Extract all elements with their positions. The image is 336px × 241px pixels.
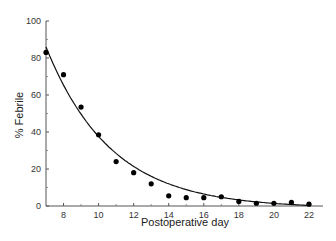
data-point bbox=[149, 181, 154, 186]
y-tick-label: 20 bbox=[31, 164, 41, 174]
x-tick-label: 20 bbox=[269, 210, 279, 220]
data-point bbox=[236, 199, 241, 204]
data-point bbox=[306, 202, 311, 207]
y-axis-title: % Febrile bbox=[13, 92, 25, 138]
data-point bbox=[201, 195, 206, 200]
y-tick-label: 0 bbox=[36, 201, 41, 211]
data-point bbox=[43, 50, 48, 55]
x-tick-label: 18 bbox=[234, 210, 244, 220]
fitted-curve bbox=[46, 47, 309, 206]
data-point bbox=[184, 195, 189, 200]
x-tick-label: 12 bbox=[129, 210, 139, 220]
data-point bbox=[61, 72, 66, 77]
data-point bbox=[219, 194, 224, 199]
y-tick-label: 40 bbox=[31, 127, 41, 137]
data-point bbox=[166, 193, 171, 198]
y-tick-label: 100 bbox=[26, 16, 41, 26]
x-tick-label: 8 bbox=[61, 210, 66, 220]
chart: 020406080100 810121416182022 Postoperati… bbox=[0, 0, 336, 241]
data-point bbox=[114, 159, 119, 164]
axes bbox=[46, 21, 323, 206]
data-point bbox=[131, 170, 136, 175]
x-tick-label: 22 bbox=[304, 210, 314, 220]
data-point bbox=[289, 200, 294, 205]
data-point bbox=[271, 201, 276, 206]
y-tick-label: 60 bbox=[31, 90, 41, 100]
data-point bbox=[254, 201, 259, 206]
data-points bbox=[43, 50, 311, 207]
y-tick-label: 80 bbox=[31, 53, 41, 63]
data-point bbox=[78, 104, 83, 109]
data-point bbox=[96, 132, 101, 137]
x-axis-title: Postoperative day bbox=[141, 216, 230, 228]
x-tick-label: 10 bbox=[94, 210, 104, 220]
